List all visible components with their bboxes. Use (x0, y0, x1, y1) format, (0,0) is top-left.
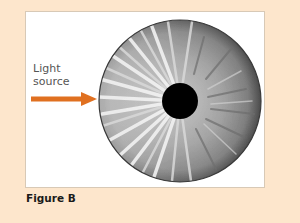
arrow-right-icon (31, 92, 101, 106)
iris-illustration (96, 19, 264, 185)
pupil (162, 83, 198, 119)
light-label-line2: source (33, 75, 70, 88)
light-source-label: Light source (33, 62, 70, 88)
figure-caption: Figure B (26, 192, 76, 204)
light-label-line1: Light (33, 62, 70, 75)
